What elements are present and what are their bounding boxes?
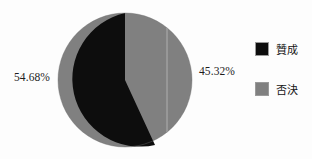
pie-plot-area: 54.68% 45.32% <box>0 0 210 159</box>
pie-label-approve-percent: 54.68% <box>14 71 50 83</box>
legend-label-approve: 贊成 <box>276 41 298 57</box>
legend-item-approve: 贊成 <box>255 42 312 56</box>
legend-swatch-reject-icon <box>255 82 269 96</box>
legend: 贊成 否決 <box>255 42 312 122</box>
legend-swatch-approve-icon <box>255 42 269 56</box>
legend-item-reject: 否決 <box>255 82 312 96</box>
legend-label-reject: 否決 <box>276 81 298 97</box>
pie-label-reject-percent: 45.32% <box>199 65 235 77</box>
pie-chart: 54.68% 45.32% 贊成 否決 <box>0 0 312 159</box>
